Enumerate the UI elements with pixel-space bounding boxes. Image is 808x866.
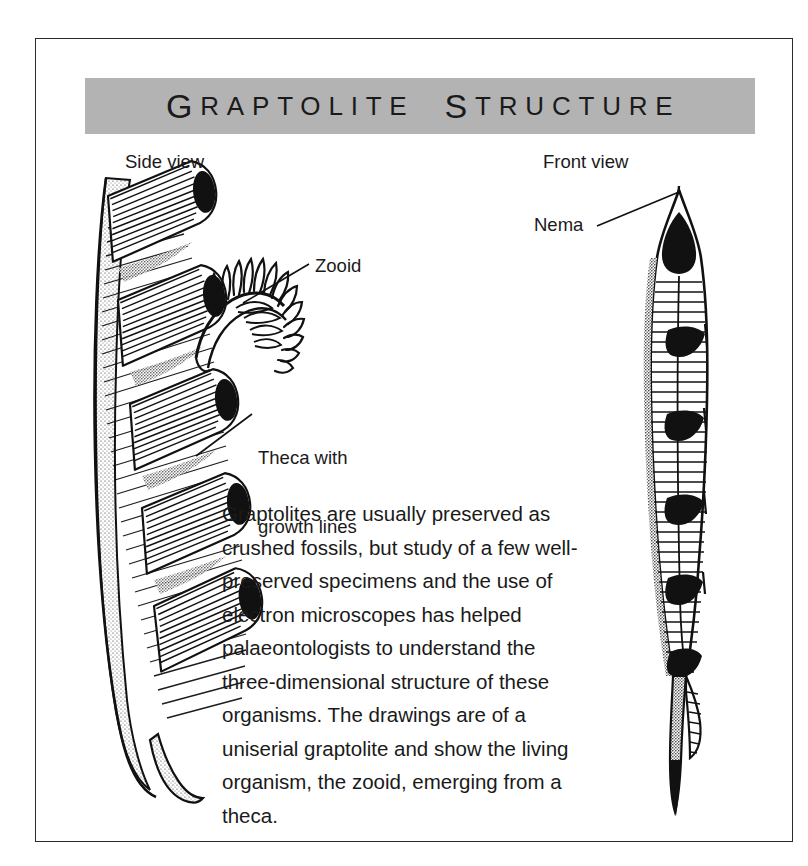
title-band: GRAPTOLITE STRUCTURE xyxy=(85,78,755,134)
callout-label-nema: Nema xyxy=(534,213,583,236)
title-space xyxy=(415,91,445,122)
title-cap-s: S xyxy=(445,87,475,126)
title-word-structure-rest: TRUCTURE xyxy=(475,91,680,122)
callout-label-zooid: Zooid xyxy=(315,254,361,277)
caption-front-view: Front view xyxy=(543,150,628,173)
title-cap-g: G xyxy=(166,87,200,126)
graptolite-figure: GRAPTOLITE STRUCTURE Side view Front vie… xyxy=(0,0,808,866)
title-word-graptolite-rest: RAPTOLITE xyxy=(200,91,414,122)
description-text: Graptolites are usually preserved as cru… xyxy=(222,497,592,832)
page-title: GRAPTOLITE STRUCTURE xyxy=(85,78,755,134)
description-paragraph: Graptolites are usually preserved as cru… xyxy=(222,497,592,832)
callout-label-theca-line1: Theca with xyxy=(258,446,357,469)
caption-side-view: Side view xyxy=(125,150,204,173)
